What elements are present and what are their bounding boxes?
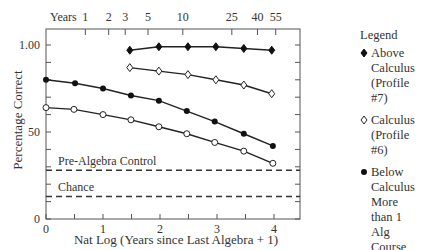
legend-title: Legend [360,28,421,43]
filled-diamond-marker [241,44,247,52]
filled-diamond-marker [185,43,191,51]
legend: Legend Above Calculus(Profile #7)Calculu… [360,28,421,250]
filled-circle-marker [72,80,78,86]
legend-item: Below CalculusMore than 1Alg Course(Prof… [360,165,421,250]
legend-item-label: Above Calculus [371,46,421,76]
filled-circle-marker [270,143,276,149]
open-circle-marker [184,131,190,137]
filled-circle-marker [43,77,49,83]
open-diamond-marker [241,81,247,89]
open-diamond-icon [360,116,368,124]
open-circle-marker [241,148,247,154]
filled-diamond-icon [360,49,368,57]
filled-circle-marker [212,119,218,125]
filled-circle-marker [100,86,106,92]
series-line [130,47,272,50]
top-tick-label: 5 [145,10,151,24]
series-line [46,80,273,146]
series-3 [43,77,276,149]
top-tick-label: 2 [106,10,112,24]
line-chart: 012340501.00123510254055 Pre-Algebra Con… [0,0,421,250]
open-circle-marker [43,105,49,111]
open-circle-marker [71,106,77,112]
open-diamond-marker [127,64,133,72]
filled-diamond-marker [269,46,275,54]
filled-circle-marker [156,98,162,104]
filled-circle-marker [128,92,134,98]
filled-circle-marker [241,131,247,137]
open-diamond-marker [269,90,275,98]
legend-item: Above Calculus(Profile #7) [360,46,421,106]
y-axis-label: Percentage Correct [10,70,25,170]
open-circle-marker [156,124,162,130]
legend-item-label: Calculus [371,113,421,128]
y-tick-label: 50 [28,125,40,139]
filled-diamond-marker [127,46,133,54]
top-tick-label: 40 [251,10,263,24]
open-circle-marker [212,139,218,145]
legend-item-label: Alg Course [371,225,421,250]
legend-item-label: (Profile #7) [371,76,421,106]
filled-circle-marker [361,169,367,175]
open-diamond-marker [156,67,162,75]
open-circle-marker [100,112,106,118]
reference-lines: Pre-Algebra ControlChance [46,154,300,196]
reference-line-label: Chance [58,180,94,194]
legend-item-label: (Profile #6) [371,128,421,158]
filled-circle-icon [360,168,368,176]
open-circle-marker [270,160,276,166]
x-tick-label: 0 [43,222,49,236]
data-series [43,43,276,167]
top-tick-label: 1 [82,10,88,24]
y-tick-label: 0 [34,212,40,226]
legend-item-label: Below Calculus [371,165,421,195]
open-diamond-marker [361,116,367,124]
filled-circle-marker [184,108,190,114]
filled-diamond-marker [156,43,162,51]
open-circle-marker [128,117,134,123]
legend-item: Calculus(Profile #6) [360,113,421,158]
filled-diamond-marker [361,49,367,57]
series-1 [127,43,275,54]
top-tick-label: 25 [226,10,238,24]
top-tick-label: 55 [270,10,282,24]
x-axis-label: Nat Log (Years since Last Algebra + 1) [74,232,278,247]
series-2 [127,64,275,98]
top-tick-label: 3 [122,10,128,24]
series-line [130,68,272,94]
top-tick-label: 10 [177,10,189,24]
reference-line-label: Pre-Algebra Control [58,154,157,168]
legend-item-label: More than 1 [371,195,421,225]
open-diamond-marker [213,76,219,84]
open-diamond-marker [185,71,191,79]
top-axis-label: Years [50,10,77,24]
filled-diamond-marker [213,43,219,51]
y-tick-label: 1.00 [19,38,40,52]
